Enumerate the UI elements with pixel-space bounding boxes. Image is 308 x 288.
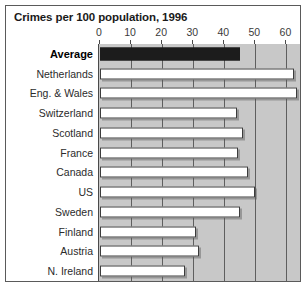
chart-row: Scotland [99,123,301,143]
chart-row: Netherlands [99,64,301,84]
bar [100,127,243,138]
bar [100,68,294,79]
bar [100,206,240,217]
chart-row: Austria [99,242,301,262]
x-tick-label: 10 [124,26,136,38]
bar [100,108,237,119]
chart-figure: Crimes per 100 population, 1996 01020304… [5,5,301,282]
x-tick-label: 30 [186,26,198,38]
category-label: US [78,186,93,198]
chart-title: Crimes per 100 population, 1996 [14,11,187,23]
chart-row: France [99,143,301,163]
chart-row: Switzerland [99,103,301,123]
bar [100,246,199,257]
chart-row: Average [99,44,301,64]
category-label: N. Ireland [47,265,93,277]
category-label: Scotland [52,127,93,139]
plot-area: AverageNetherlandsEng. & WalesSwitzerlan… [98,44,301,281]
bar [100,167,248,178]
x-tick-label: 60 [280,26,292,38]
category-label: Canada [56,166,93,178]
bar [100,147,238,158]
x-axis: 0102030405060 [98,26,301,44]
x-tick-label: 50 [249,26,261,38]
category-label: France [60,147,93,159]
chart-row: Finland [99,222,301,242]
chart-row: Canada [99,163,301,183]
bar [100,187,255,198]
category-label: Switzerland [39,107,93,119]
chart-row: US [99,182,301,202]
category-label: Sweden [55,206,93,218]
bar [100,88,297,99]
category-label: Average [50,48,93,60]
bar [100,266,185,277]
chart-row: Sweden [99,202,301,222]
category-label: Finland [59,226,93,238]
x-tick-label: 40 [217,26,229,38]
x-tick-label: 0 [96,26,102,38]
category-label: Austria [60,245,93,257]
bar [100,47,240,60]
chart-row: N. Ireland [99,261,301,281]
chart-row: Eng. & Wales [99,84,301,104]
category-label: Eng. & Wales [30,87,93,99]
category-label: Netherlands [36,68,93,80]
x-tick-label: 20 [155,26,167,38]
bar [100,226,196,237]
